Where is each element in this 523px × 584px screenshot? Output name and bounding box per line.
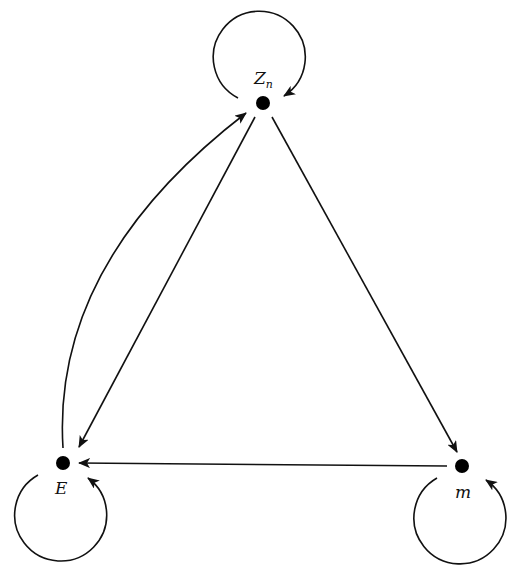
edge-m-to-e [79, 463, 447, 466]
node-e [56, 456, 70, 470]
node-zn [256, 96, 270, 110]
node-label-m: m [455, 482, 471, 502]
edge-zn-to-m [272, 117, 457, 452]
node-m [455, 459, 469, 473]
graph-diagram: Zn E m [0, 0, 523, 584]
edge-zn-to-e [79, 117, 255, 447]
edge-e-to-zn [62, 113, 246, 448]
node-label-zn: Zn [254, 68, 273, 91]
node-label-e: E [55, 478, 67, 498]
